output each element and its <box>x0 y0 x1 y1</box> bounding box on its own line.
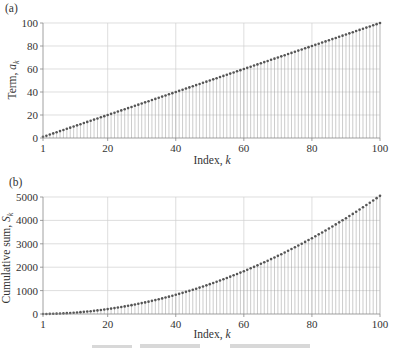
data-point <box>226 73 229 76</box>
y-tick-label: 4000 <box>16 214 39 226</box>
data-point <box>157 298 160 301</box>
data-point <box>294 246 297 249</box>
y-tick-label: 0 <box>33 132 39 144</box>
data-point <box>198 83 201 86</box>
data-point <box>161 95 164 98</box>
panel-b-stems <box>43 196 380 314</box>
y-tick-label: 0 <box>33 308 39 320</box>
data-point <box>253 266 256 269</box>
data-point <box>55 131 58 134</box>
data-point <box>270 59 273 62</box>
data-point <box>300 48 303 51</box>
data-point <box>307 239 310 242</box>
data-point <box>307 46 310 49</box>
data-point <box>232 71 235 74</box>
data-point <box>154 98 157 101</box>
data-point <box>96 117 99 120</box>
data-point <box>215 280 218 283</box>
data-point <box>185 291 188 294</box>
data-point <box>219 279 222 282</box>
data-point <box>328 39 331 42</box>
data-point <box>137 103 140 106</box>
data-point <box>358 208 361 211</box>
data-point <box>372 24 375 27</box>
data-point <box>314 44 317 47</box>
data-point <box>144 301 147 304</box>
data-point <box>253 64 256 67</box>
data-point <box>130 106 133 109</box>
data-point <box>96 309 99 312</box>
data-point <box>351 213 354 216</box>
data-point <box>368 201 371 204</box>
data-point <box>123 108 126 111</box>
data-point <box>49 133 52 136</box>
data-point <box>72 125 75 128</box>
data-point <box>341 34 344 37</box>
data-point <box>362 27 365 30</box>
x-tick-label: 60 <box>238 318 250 330</box>
panel-b-tick-labels: 120406080100010002000300040005000 <box>16 191 389 330</box>
y-tick-label: 80 <box>27 40 39 52</box>
data-point <box>311 237 314 240</box>
data-point <box>324 229 327 232</box>
data-point <box>249 267 252 270</box>
data-point <box>110 307 113 310</box>
x-tick-label: 20 <box>102 142 114 154</box>
data-point <box>185 87 188 90</box>
data-point <box>222 278 225 281</box>
caption-fragment <box>230 344 310 348</box>
data-point <box>294 50 297 53</box>
data-point <box>375 197 378 200</box>
data-point <box>191 288 194 291</box>
data-point <box>195 287 198 290</box>
data-point <box>365 26 368 29</box>
data-point <box>321 231 324 234</box>
data-point <box>161 297 164 300</box>
data-point <box>151 300 154 303</box>
data-point <box>368 25 371 28</box>
data-point <box>110 113 113 116</box>
data-point <box>355 30 358 33</box>
data-point <box>317 233 320 236</box>
y-tick-label: 60 <box>27 63 39 75</box>
data-point <box>52 132 55 135</box>
data-point <box>76 311 79 314</box>
data-point <box>69 126 72 129</box>
x-tick-label: 80 <box>306 142 318 154</box>
data-point <box>263 261 266 264</box>
data-point <box>379 22 382 25</box>
panel-b-grid <box>43 197 380 314</box>
data-point <box>365 204 368 207</box>
data-point <box>283 251 286 254</box>
y-tick-label: 3000 <box>16 238 39 250</box>
data-point <box>106 114 109 117</box>
data-point <box>311 45 314 48</box>
data-point <box>93 118 96 121</box>
data-point <box>178 90 181 93</box>
data-point <box>348 32 351 35</box>
data-point <box>246 67 249 70</box>
data-point <box>375 23 378 26</box>
panel-b-x-axis-label: Index, k <box>193 328 231 341</box>
data-point <box>208 283 211 286</box>
data-point <box>331 225 334 228</box>
data-point <box>127 304 130 307</box>
figure-caption <box>92 344 310 348</box>
data-point <box>297 49 300 52</box>
data-point <box>260 62 263 65</box>
data-point <box>174 91 177 94</box>
data-point <box>317 42 320 45</box>
x-tick-label: 100 <box>372 318 389 330</box>
caption-fragment <box>140 344 200 348</box>
data-point <box>229 72 232 75</box>
data-point <box>134 105 137 108</box>
data-point <box>280 253 283 256</box>
data-point <box>147 100 150 103</box>
data-point <box>147 300 150 303</box>
data-point <box>130 304 133 307</box>
data-point <box>215 77 218 80</box>
data-point <box>290 52 293 55</box>
data-point <box>202 285 205 288</box>
data-point <box>345 217 348 220</box>
data-point <box>300 242 303 245</box>
